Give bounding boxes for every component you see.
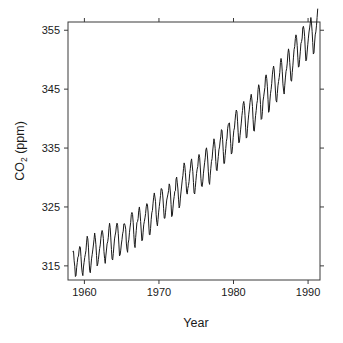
y-axis-title-unit: (ppm)	[13, 121, 27, 157]
co2-line-chart: 1960197019801990 315325335345355 Year CO…	[0, 0, 343, 343]
x-tick-label: 1990	[296, 286, 320, 298]
y-tick-label: 345	[42, 83, 60, 95]
x-tick-label: 1960	[72, 286, 96, 298]
y-axis-title-base: CO	[13, 162, 27, 181]
y-tick-label: 335	[42, 142, 60, 154]
chart-figure: 1960197019801990 315325335345355 Year CO…	[0, 0, 343, 343]
x-tick-label: 1970	[147, 286, 171, 298]
y-tick-label: 355	[42, 24, 60, 36]
y-axis-title: CO2 (ppm)	[13, 121, 29, 181]
x-axis-title: Year	[183, 316, 208, 330]
chart-background	[0, 0, 343, 343]
x-tick-label: 1980	[221, 286, 245, 298]
y-tick-label: 325	[42, 201, 60, 213]
y-tick-label: 315	[42, 260, 60, 272]
svg-text:CO2 (ppm): CO2 (ppm)	[13, 121, 29, 181]
